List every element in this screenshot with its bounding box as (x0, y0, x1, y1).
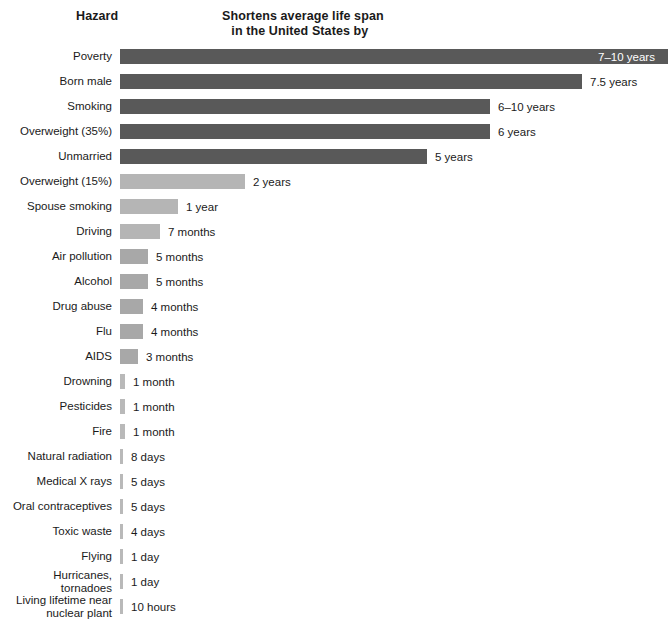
chart-row: Fire1 month (0, 419, 671, 444)
row-bar (120, 374, 125, 389)
row-bar (120, 599, 123, 614)
row-bar-area: 1 month (120, 419, 671, 444)
row-value-label: 1 year (186, 194, 218, 219)
row-bar (120, 549, 123, 564)
row-bar-area: 7.5 years (120, 69, 671, 94)
row-bar (120, 399, 125, 414)
chart-rows: Poverty7–10 yearsBorn male7.5 yearsSmoki… (0, 44, 671, 619)
row-category-label: Pesticides (60, 394, 112, 419)
chart-row: AIDS3 months (0, 344, 671, 369)
row-bar-area: 5 months (120, 244, 671, 269)
chart-row: Natural radiation8 days (0, 444, 671, 469)
life-span-hazard-chart: Hazard Shortens average life span in the… (0, 0, 671, 634)
row-bar-area: 8 days (120, 444, 671, 469)
row-value-label: 7 months (168, 219, 215, 244)
row-bar-area: 7 months (120, 219, 671, 244)
row-bar-area: 4 months (120, 294, 671, 319)
chart-row: Overweight (35%)6 years (0, 119, 671, 144)
chart-header: Hazard Shortens average life span in the… (0, 0, 671, 44)
row-bar-area: 6 years (120, 119, 671, 144)
chart-row: Air pollution5 months (0, 244, 671, 269)
chart-row: Living lifetime near nuclear plant10 hou… (0, 594, 671, 619)
chart-row: Flu4 months (0, 319, 671, 344)
row-bar-area: 5 months (120, 269, 671, 294)
chart-row: Flying1 day (0, 544, 671, 569)
row-bar (120, 274, 148, 289)
row-value-label: 3 months (146, 344, 193, 369)
column-header-hazard: Hazard (76, 9, 118, 23)
row-bar (120, 299, 143, 314)
row-category-label: Alcohol (74, 269, 112, 294)
row-value-label: 7.5 years (590, 69, 637, 94)
row-bar (120, 74, 582, 89)
row-bar (120, 324, 143, 339)
row-bar-area: 4 days (120, 519, 671, 544)
chart-row: Born male7.5 years (0, 69, 671, 94)
row-bar-area: 2 years (120, 169, 671, 194)
row-bar (120, 574, 123, 589)
row-bar-area: 10 hours (120, 594, 671, 619)
row-value-label: 8 days (131, 444, 165, 469)
row-value-label: 6–10 years (498, 94, 555, 119)
row-category-label: Natural radiation (28, 444, 112, 469)
chart-row: Alcohol5 months (0, 269, 671, 294)
row-bar-area: 1 day (120, 544, 671, 569)
row-bar (120, 149, 427, 164)
row-bar (120, 499, 123, 514)
row-value-label: 1 month (133, 419, 175, 444)
row-bar (120, 49, 668, 64)
chart-row: Drug abuse4 months (0, 294, 671, 319)
row-value-label: 1 day (131, 569, 159, 594)
column-header-metric-line2: in the United States by (222, 24, 384, 39)
row-category-label: Oral contraceptives (13, 494, 112, 519)
row-category-label: Flying (81, 544, 112, 569)
row-category-label: Spouse smoking (27, 194, 112, 219)
row-category-label: Hurricanes, tornadoes (0, 569, 112, 594)
row-value-label: 4 months (151, 319, 198, 344)
chart-row: Smoking6–10 years (0, 94, 671, 119)
row-category-label: Overweight (35%) (20, 119, 112, 144)
row-bar (120, 224, 160, 239)
row-category-label: Flu (96, 319, 112, 344)
row-category-label: Poverty (73, 44, 112, 69)
row-bar-area: 6–10 years (120, 94, 671, 119)
row-bar (120, 124, 490, 139)
row-category-label: Born male (60, 69, 112, 94)
row-category-label: Drug abuse (53, 294, 112, 319)
row-bar-area: 1 month (120, 394, 671, 419)
row-category-label: Driving (76, 219, 112, 244)
row-bar (120, 199, 178, 214)
chart-row: Oral contraceptives5 days (0, 494, 671, 519)
row-category-label: Fire (92, 419, 112, 444)
row-value-label: 1 month (133, 394, 175, 419)
row-category-label: Living lifetime near nuclear plant (16, 594, 112, 619)
column-header-metric: Shortens average life span in the United… (222, 9, 384, 39)
row-bar (120, 99, 490, 114)
row-bar (120, 249, 148, 264)
row-value-label: 5 months (156, 244, 203, 269)
chart-row: Driving7 months (0, 219, 671, 244)
chart-row: Hurricanes, tornadoes1 day (0, 569, 671, 594)
row-value-label: 5 months (156, 269, 203, 294)
row-bar-area: 3 months (120, 344, 671, 369)
row-bar-area: 4 months (120, 319, 671, 344)
row-value-label: 1 month (133, 369, 175, 394)
row-category-label: Toxic waste (53, 519, 112, 544)
row-bar-area: 5 years (120, 144, 671, 169)
chart-row: Spouse smoking1 year (0, 194, 671, 219)
row-bar-area: 1 month (120, 369, 671, 394)
row-value-label: 10 hours (131, 594, 176, 619)
row-bar (120, 524, 123, 539)
row-bar-area: 1 year (120, 194, 671, 219)
row-value-label: 1 day (131, 544, 159, 569)
row-bar-area: 5 days (120, 469, 671, 494)
row-bar-area: 5 days (120, 494, 671, 519)
row-category-label: Overweight (15%) (20, 169, 112, 194)
row-bar (120, 424, 125, 439)
row-bar (120, 349, 138, 364)
row-bar (120, 474, 123, 489)
chart-row: Drowning1 month (0, 369, 671, 394)
row-category-label: Medical X rays (37, 469, 112, 494)
chart-row: Toxic waste4 days (0, 519, 671, 544)
row-bar-area: 1 day (120, 569, 671, 594)
